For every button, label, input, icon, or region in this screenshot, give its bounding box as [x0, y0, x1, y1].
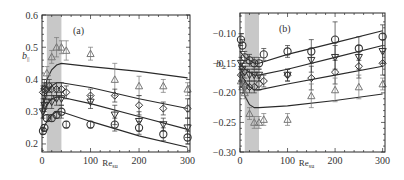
x-tick-label: 0 — [238, 155, 243, 166]
panel-a: 01002003000.20.30.40.50.6Resub||(a) — [22, 10, 195, 170]
y-tick-label: −0.20 — [213, 87, 236, 98]
x-tick-label: 200 — [328, 155, 343, 166]
y-tick-label: −0.30 — [213, 147, 236, 158]
panel-letter: (a) — [73, 25, 84, 37]
y-tick-label: −0.10 — [213, 28, 236, 39]
figure: 01002003000.20.30.40.50.6Resub||(a) 0100… — [0, 0, 404, 180]
panel-b: 0100200300−0.30−0.25−0.20−0.15−0.10Resub… — [213, 13, 390, 169]
y-tick-label: 0.3 — [26, 106, 39, 117]
x-axis-label: Resu — [299, 158, 314, 169]
y-tick-label: −0.25 — [213, 117, 236, 128]
x-tick-label: 0 — [40, 155, 45, 166]
y-tick-label: 0.5 — [26, 42, 39, 53]
x-tick-label: 100 — [83, 155, 98, 166]
y-tick-label: 0.2 — [26, 138, 39, 149]
y-tick-label: 0.6 — [26, 10, 39, 21]
x-axis-label: Resu — [102, 158, 117, 169]
panel-letter: (b) — [279, 23, 291, 35]
x-tick-label: 300 — [375, 155, 390, 166]
y-tick-label: 0.4 — [26, 74, 39, 85]
x-tick-label: 300 — [180, 155, 195, 166]
x-tick-label: 100 — [280, 155, 295, 166]
series-triangle — [237, 75, 386, 128]
x-tick-label: 200 — [132, 155, 147, 166]
chart-canvas: 01002003000.20.30.40.50.6Resub||(a) 0100… — [0, 0, 404, 180]
